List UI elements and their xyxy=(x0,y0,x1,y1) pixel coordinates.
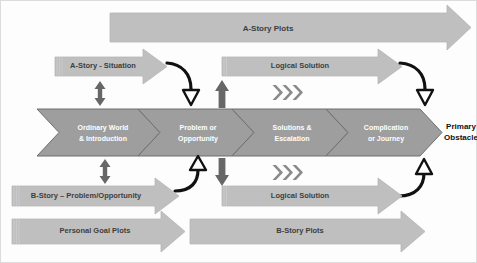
process-stage-2-line2: Opportunity xyxy=(178,135,218,143)
process-stage-4-line1: Complication xyxy=(364,124,408,132)
process-stage-1-line2: & Introduction xyxy=(79,135,127,142)
primary-obstacle-line1: Primary xyxy=(446,122,476,131)
center-process-band: Ordinary World & Introduction Problem or… xyxy=(37,109,442,156)
process-stage-2-line1: Problem or xyxy=(180,124,217,131)
a-story-plots-label: A-Story Plots xyxy=(243,24,294,33)
a-story-situation-label: A-Story - Situation xyxy=(70,61,136,70)
b-story-problem-label: B-Story – Problem/Opportunity xyxy=(31,191,142,200)
personal-goal-plots-label: Personal Goal Plots xyxy=(60,226,131,235)
process-stage-3-line2: Escalation xyxy=(274,135,309,142)
process-stage-4-line2: or Journey xyxy=(368,135,404,143)
diagram-canvas: A-Story Plots A-Story - Situation Logica… xyxy=(0,0,477,263)
b-story-plots-label: B-Story Plots xyxy=(276,226,324,235)
process-stage-3-line1: Solutions & xyxy=(273,124,312,131)
bottom-logical-solution-label: Logical Solution xyxy=(271,191,330,200)
top-logical-solution-label: Logical Solution xyxy=(271,61,330,70)
process-stage-1-line1: Ordinary World xyxy=(78,124,129,132)
primary-obstacle-line2: Obstacle xyxy=(444,133,477,142)
